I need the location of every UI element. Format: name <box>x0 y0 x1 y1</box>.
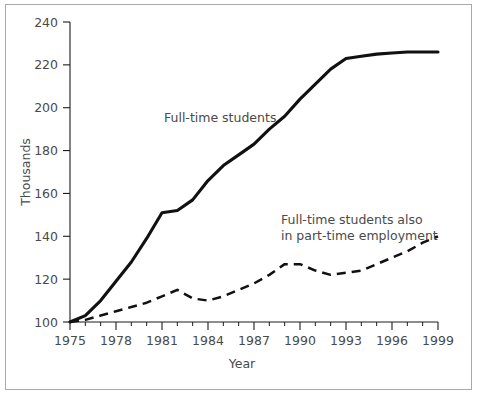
chart-figure: 1001201401601802002202401975197819811984… <box>0 0 477 395</box>
series-label-part-time-line1: Full-time students also <box>281 212 423 227</box>
x-tick-label: 1990 <box>284 333 316 348</box>
x-tick-label: 1975 <box>54 333 86 348</box>
y-tick-label: 220 <box>34 57 58 72</box>
y-tick-label: 240 <box>34 15 58 30</box>
y-tick-label: 160 <box>34 186 58 201</box>
x-axis-title: Year <box>228 356 256 371</box>
y-tick-label: 120 <box>34 272 58 287</box>
y-tick-label: 100 <box>34 315 58 330</box>
x-tick-label: 1978 <box>100 333 132 348</box>
x-tick-label: 1993 <box>330 333 362 348</box>
series-label-full-time: Full-time students <box>164 110 276 125</box>
series-line-full-time <box>70 52 438 322</box>
series-label-part-time-line2: in part-time employment <box>281 228 438 243</box>
y-axis-title: Thousands <box>18 138 33 207</box>
x-tick-label: 1999 <box>422 333 454 348</box>
y-tick-label: 180 <box>34 143 58 158</box>
series-line-part-time <box>70 236 438 322</box>
x-tick-label: 1987 <box>238 333 270 348</box>
x-tick-label: 1984 <box>192 333 224 348</box>
x-tick-label: 1996 <box>376 333 408 348</box>
x-tick-label: 1981 <box>146 333 178 348</box>
y-tick-label: 140 <box>34 229 58 244</box>
line-chart-plot: 1001201401601802002202401975197819811984… <box>0 0 477 395</box>
y-tick-label: 200 <box>34 100 58 115</box>
